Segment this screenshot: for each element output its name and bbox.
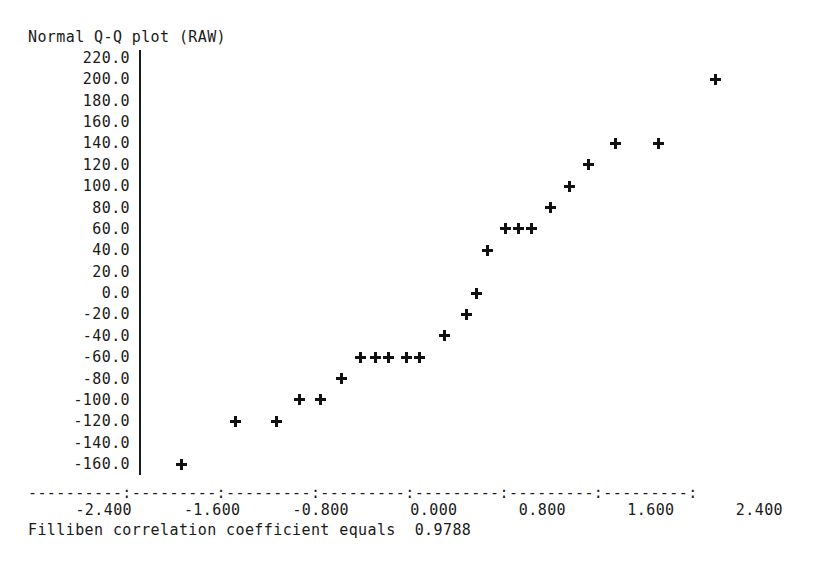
y-axis-tick-label: -140.0 (30, 436, 130, 451)
y-axis-line (139, 50, 141, 475)
x-axis-tick-labels: -2.400-1.600-0.8000.0000.8001.6002.400 (0, 503, 833, 523)
data-point (401, 352, 412, 363)
data-point (583, 159, 594, 170)
y-axis-tick-label: -60.0 (30, 350, 130, 365)
y-axis-tick-labels: 220.0200.0180.0160.0140.0120.0100.080.06… (30, 0, 130, 564)
y-axis-tick-label: 60.0 (30, 222, 130, 237)
data-point (500, 223, 511, 234)
y-axis-tick-label: -160.0 (30, 457, 130, 472)
data-point (439, 330, 450, 341)
data-point (176, 459, 187, 470)
data-point (271, 416, 282, 427)
x-axis-line: ----------:---------:---------:---------… (28, 486, 698, 501)
data-point (355, 352, 366, 363)
y-axis-tick-label: -120.0 (30, 414, 130, 429)
y-axis-tick-label: 220.0 (30, 51, 130, 66)
data-point (610, 138, 621, 149)
y-axis-tick-label: -100.0 (30, 393, 130, 408)
data-point (545, 202, 556, 213)
y-axis-tick-label: 120.0 (30, 158, 130, 173)
x-axis-tick-label: 0.800 (519, 503, 566, 518)
filliben-correlation-footer: Filliben correlation coefficient equals … (28, 523, 471, 538)
data-point (336, 373, 347, 384)
data-point (294, 394, 305, 405)
y-axis-tick-label: 0.0 (30, 286, 130, 301)
data-point (230, 416, 241, 427)
data-point (513, 223, 524, 234)
x-axis-tick-label: -0.800 (292, 503, 349, 518)
y-axis-tick-label: 20.0 (30, 265, 130, 280)
data-point (471, 288, 482, 299)
data-point (710, 74, 721, 85)
qq-plot-figure: Normal Q-Q plot (RAW) 220.0200.0180.0160… (0, 0, 833, 564)
y-axis-tick-label: 200.0 (30, 72, 130, 87)
data-point (383, 352, 394, 363)
y-axis-tick-label: 80.0 (30, 201, 130, 216)
y-axis-tick-label: 100.0 (30, 179, 130, 194)
x-axis-tick-label: 2.400 (736, 503, 783, 518)
y-axis-tick-label: 180.0 (30, 94, 130, 109)
data-point (482, 245, 493, 256)
data-point (315, 394, 326, 405)
y-axis-tick-label: -40.0 (30, 329, 130, 344)
x-axis-tick-label: 1.600 (627, 503, 674, 518)
y-axis-tick-label: -20.0 (30, 307, 130, 322)
y-axis-tick-label: 140.0 (30, 136, 130, 151)
y-axis-tick-label: -80.0 (30, 372, 130, 387)
data-point (461, 309, 472, 320)
y-axis-tick-label: 160.0 (30, 115, 130, 130)
y-axis-tick-label: 40.0 (30, 243, 130, 258)
x-axis-tick-label: -2.400 (75, 503, 132, 518)
data-point (370, 352, 381, 363)
data-point (564, 181, 575, 192)
x-axis-tick-label: 0.000 (410, 503, 457, 518)
data-point (414, 352, 425, 363)
x-axis-tick-label: -1.600 (184, 503, 241, 518)
data-point (653, 138, 664, 149)
data-point (526, 223, 537, 234)
